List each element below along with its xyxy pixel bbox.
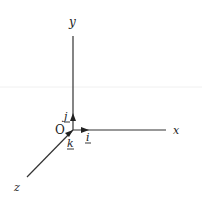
y-axis-label: y (68, 15, 76, 29)
i-label: i (86, 131, 90, 144)
j-arrow-icon (70, 113, 76, 121)
x-axis-label: x (173, 124, 180, 137)
j-label: j (61, 110, 68, 123)
origin-label: O (55, 123, 65, 137)
k-label: k (67, 137, 74, 150)
k-arrow-icon (65, 130, 73, 137)
z-axis-label: z (13, 181, 20, 194)
coordinate-diagram: y x z O j i k (0, 0, 202, 206)
